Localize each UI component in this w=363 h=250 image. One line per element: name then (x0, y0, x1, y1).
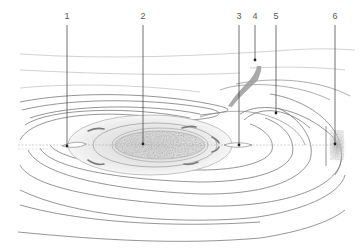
contour-diagram (0, 0, 363, 250)
label-2: 2 (140, 11, 145, 21)
label-1: 1 (64, 11, 69, 21)
label-4: 4 (252, 11, 257, 21)
upper-contours (20, 49, 355, 92)
label-5: 5 (273, 11, 278, 21)
label-3: 3 (236, 11, 241, 21)
contour-figure: 1 2 3 4 5 6 (0, 0, 363, 250)
label-6: 6 (332, 11, 337, 21)
